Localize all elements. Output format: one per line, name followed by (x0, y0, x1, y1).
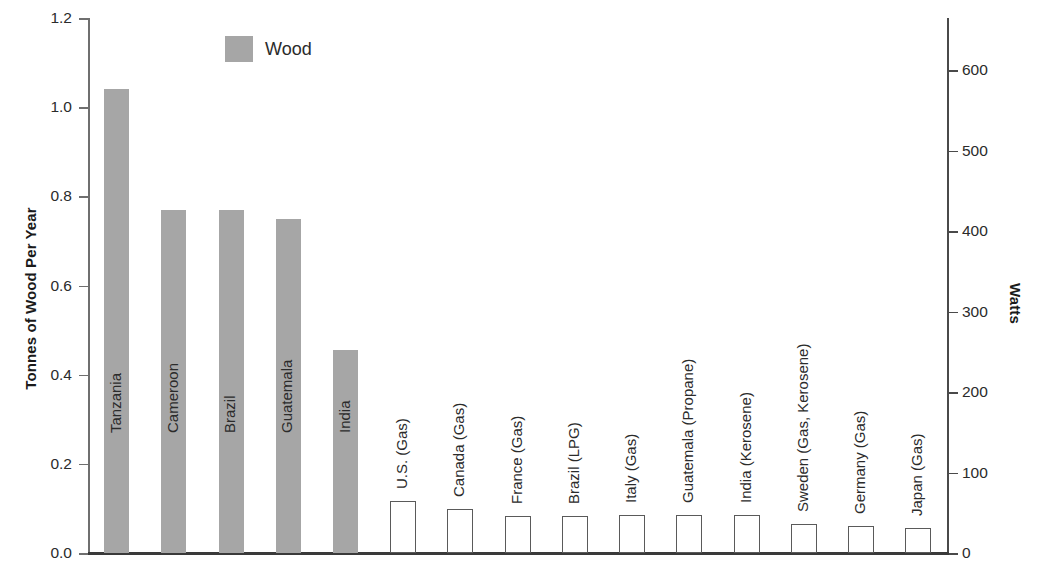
bar[interactable] (734, 515, 760, 553)
chart-container: Tonnes of Wood Per Year Watts 0.00.20.40… (0, 0, 1050, 562)
y2-axis-tick-mark (949, 392, 958, 394)
y2-axis-tick-label: 100 (962, 464, 988, 482)
bar-category-label: Sweden (Gas, Kerosene) (795, 344, 810, 512)
bar[interactable] (447, 509, 473, 553)
y-axis-tick-mark (79, 196, 88, 198)
legend: Wood (225, 36, 312, 62)
legend-label-wood: Wood (265, 39, 312, 60)
bar-category-label: India (337, 400, 352, 433)
bar-category-label: India (Kerosene) (738, 392, 753, 503)
y-axis-tick-mark (79, 464, 88, 466)
bar-category-label: Italy (Gas) (623, 434, 638, 503)
y2-axis-tick-label: 600 (962, 61, 988, 79)
y2-axis-tick-mark (949, 70, 958, 72)
y-axis-tick-label: 0.6 (14, 277, 72, 295)
bar[interactable] (219, 210, 244, 553)
y2-axis-tick-label: 400 (962, 222, 988, 240)
bar-category-label: Tanzania (108, 373, 123, 433)
bar[interactable] (562, 516, 588, 553)
y-axis-tick-label: 0.2 (14, 455, 72, 473)
bar[interactable] (848, 526, 874, 553)
bar[interactable] (333, 350, 358, 553)
bar[interactable] (619, 515, 645, 553)
bar[interactable] (104, 89, 129, 553)
y2-axis-tick-mark (949, 553, 958, 555)
bar-category-label: Japan (Gas) (909, 434, 924, 517)
bar-category-label: Brazil (222, 395, 237, 433)
bar[interactable] (905, 528, 931, 553)
y2-axis-tick-mark (949, 151, 958, 153)
y2-axis-tick-label: 200 (962, 383, 988, 401)
y2-axis-tick-label: 500 (962, 142, 988, 160)
bar-category-label: U.S. (Gas) (394, 419, 409, 490)
y2-axis-title: Watts (1007, 244, 1024, 364)
y2-axis-tick-mark (949, 231, 958, 233)
bar-category-label: France (Gas) (509, 416, 524, 504)
bar-category-label: Brazil (LPG) (566, 422, 581, 504)
y2-axis-tick-label: 300 (962, 303, 988, 321)
bar[interactable] (390, 501, 416, 553)
y-axis-tick-label: 0.4 (14, 366, 72, 384)
y2-axis-tick-label: 0 (962, 544, 971, 562)
y-axis-tick-mark (79, 553, 88, 555)
y-axis-tick-mark (79, 286, 88, 288)
y-axis-tick-mark (79, 375, 88, 377)
y-axis-title: Tonnes of Wood Per Year (22, 169, 39, 429)
bar-category-label: Cameroon (165, 363, 180, 433)
plot-area: TanzaniaCameroonBrazilGuatemalaIndiaU.S.… (88, 18, 948, 553)
bar-category-label: Germany (Gas) (852, 411, 867, 514)
y-axis-tick-mark (79, 18, 88, 20)
y2-axis-tick-mark (949, 312, 958, 314)
bar-category-label: Guatemala (279, 360, 294, 433)
bar-category-label: Canada (Gas) (451, 403, 466, 497)
y-axis-tick-label: 1.0 (14, 98, 72, 116)
y2-axis-tick-mark (949, 473, 958, 475)
bar[interactable] (676, 515, 702, 553)
y-axis-tick-label: 1.2 (14, 9, 72, 27)
y-axis-tick-label: 0.8 (14, 187, 72, 205)
bar[interactable] (791, 524, 817, 553)
y-axis-tick-label: 0.0 (14, 544, 72, 562)
bar[interactable] (505, 516, 531, 553)
bar-category-label: Guatemala (Propane) (680, 359, 695, 503)
y-axis-tick-mark (79, 107, 88, 109)
legend-swatch-wood (225, 36, 253, 62)
